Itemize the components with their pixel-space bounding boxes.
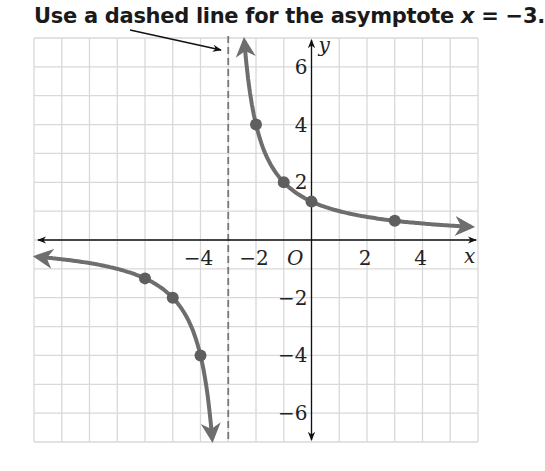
annotation-arrow	[130, 30, 221, 50]
data-point	[250, 119, 262, 131]
axes	[38, 40, 476, 440]
curve-left-branch	[37, 257, 212, 439]
x-axis-label: x	[464, 244, 475, 268]
data-point	[278, 176, 290, 188]
y-tick-label: −2	[278, 286, 307, 310]
curve-right-branch	[244, 41, 471, 227]
y-tick-label: −6	[278, 401, 307, 425]
data-point	[139, 272, 151, 284]
y-tick-label: 2	[295, 170, 308, 194]
data-point	[167, 292, 179, 304]
y-tick-label: 4	[295, 113, 308, 137]
data-point	[306, 196, 318, 208]
data-point	[195, 349, 207, 361]
x-tick-label: −4	[184, 246, 213, 270]
y-tick-label: −4	[278, 343, 307, 367]
origin-label: O	[287, 246, 303, 270]
y-axis-label: y	[318, 33, 331, 57]
x-tick-label: −2	[239, 246, 268, 270]
data-point	[389, 215, 401, 227]
y-tick-label: 6	[295, 55, 308, 79]
x-tick-label: 2	[359, 246, 372, 270]
x-tick-label: 4	[414, 246, 427, 270]
